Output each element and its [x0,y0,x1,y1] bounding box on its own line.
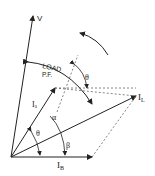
v-axis [11,16,33,157]
beta-label: β [66,141,70,150]
il-phasor [11,96,136,157]
rotation-arrow [80,33,108,55]
ia-label: Iₐ [32,100,38,109]
alpha-label: α [52,113,57,122]
phasor-diagram: V LOAD P.F. θ Iₐ α θ β IL IB [0,0,155,176]
theta-bottom-label: θ [36,129,40,138]
v-label: V [37,14,43,23]
dashed-top [55,88,136,96]
il-label: IL [138,92,145,103]
pf-label: P.F. [42,71,53,78]
phasor-svg: V LOAD P.F. θ Iₐ α θ β IL IB [0,0,155,176]
theta-top-label: θ [85,73,89,82]
ib-label: IB [57,160,64,171]
dashed-right [92,96,136,157]
